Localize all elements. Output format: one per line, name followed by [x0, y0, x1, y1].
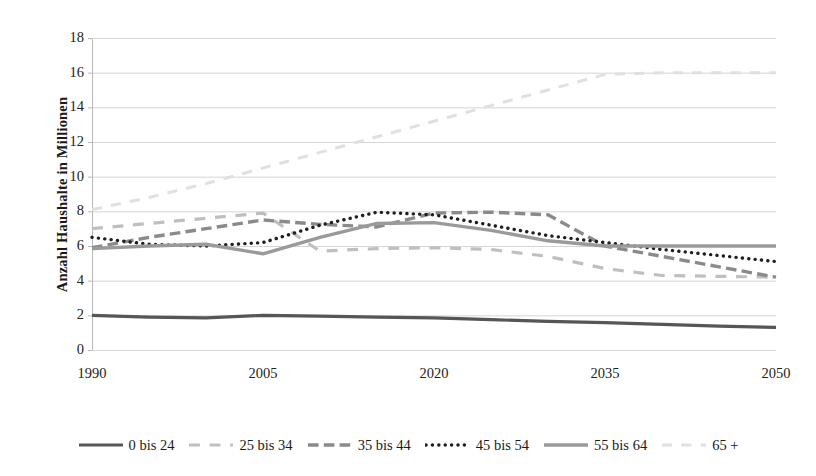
- legend-swatch-65-plus: [661, 439, 707, 451]
- legend-swatch-25-bis-34: [188, 439, 234, 451]
- legend-item[interactable]: 35 bis 44: [307, 437, 411, 454]
- legend-label: 55 bis 64: [594, 437, 647, 454]
- legend-label: 25 bis 34: [239, 437, 292, 454]
- legend-swatch-35-bis-44: [307, 439, 353, 451]
- legend-swatch-45-bis-54: [425, 439, 471, 451]
- legend-label: 35 bis 44: [358, 437, 411, 454]
- legend-swatch-55-bis-64: [543, 439, 589, 451]
- legend-label: 0 bis 24: [129, 437, 175, 454]
- legend-label: 45 bis 54: [476, 437, 529, 454]
- legend-item[interactable]: 25 bis 34: [188, 437, 292, 454]
- legend-swatch-0-bis-24: [78, 439, 124, 451]
- legend-label: 65 +: [712, 437, 738, 454]
- legend-item[interactable]: 55 bis 64: [543, 437, 647, 454]
- legend-item[interactable]: 65 +: [661, 437, 738, 454]
- line-chart: Anzahl Haushalte in Millionen 1816141210…: [0, 0, 816, 476]
- chart-legend: 0 bis 2425 bis 3435 bis 4445 bis 5455 bi…: [0, 428, 816, 462]
- legend-item[interactable]: 0 bis 24: [78, 437, 175, 454]
- legend-item[interactable]: 45 bis 54: [425, 437, 529, 454]
- plot-background: [92, 38, 776, 350]
- plot-area: [0, 0, 816, 476]
